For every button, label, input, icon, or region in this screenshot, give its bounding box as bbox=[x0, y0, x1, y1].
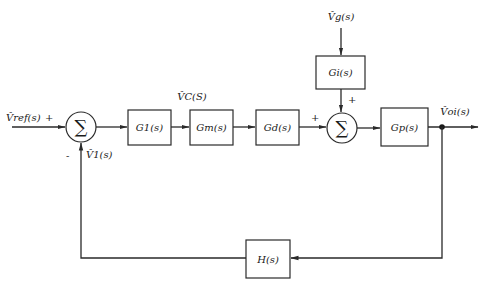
block-gi: Gi(s) bbox=[316, 56, 365, 89]
sum1-minus-sign: - bbox=[66, 150, 69, 161]
vref-label: V̂ref(s) bbox=[6, 112, 41, 123]
sigma-icon: ∑ bbox=[336, 117, 349, 138]
block-g1: G1(s) bbox=[128, 110, 171, 145]
vg-label: V̂g(s) bbox=[328, 11, 355, 22]
block-gd: Gd(s) bbox=[256, 110, 299, 145]
vc-label: V̂C(S) bbox=[177, 91, 207, 102]
gd-label: Gd(s) bbox=[264, 122, 291, 133]
block-gm: Gm(s) bbox=[190, 110, 233, 145]
block-gp: Gp(s) bbox=[381, 108, 428, 146]
voi-label: V̂oi(s) bbox=[440, 106, 469, 117]
feedback-path bbox=[291, 127, 442, 258]
block-h: H(s) bbox=[246, 240, 290, 278]
sum2-plus-left-sign: + bbox=[311, 112, 319, 123]
v1-label: V̂1(s) bbox=[86, 149, 113, 160]
gm-label: Gm(s) bbox=[196, 122, 227, 133]
g1-label: G1(s) bbox=[136, 122, 163, 133]
sigma-icon: ∑ bbox=[75, 116, 88, 137]
gp-label: Gp(s) bbox=[391, 122, 418, 133]
summing-junction-2: ∑ bbox=[327, 113, 357, 143]
input-signal: V̂ref(s) + bbox=[6, 112, 65, 127]
sum1-plus-sign: + bbox=[45, 112, 53, 123]
disturbance-signal: V̂g(s) bbox=[328, 11, 355, 55]
sum2-plus-top-sign: + bbox=[348, 94, 356, 105]
h-label: H(s) bbox=[256, 254, 279, 265]
gi-label: Gi(s) bbox=[328, 67, 352, 78]
block-diagram: V̂ref(s) + ∑ - G1(s) V̂C(S) Gm(s) Gd(s) … bbox=[0, 0, 486, 290]
output-signal: V̂oi(s) bbox=[428, 106, 478, 130]
